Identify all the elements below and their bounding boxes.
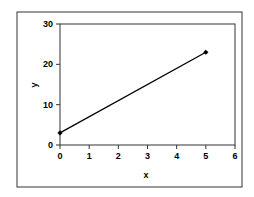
x-tick-label: 5 [203,151,208,161]
y-tick-label: 0 [48,140,53,150]
x-tick-label: 3 [145,151,150,161]
x-tick-label: 0 [57,151,62,161]
x-tick-label: 4 [174,151,179,161]
y-tick-label: 20 [43,59,53,69]
y-axis-label: y [29,82,39,87]
y-tick-label: 30 [43,19,53,29]
x-tick-label: 1 [87,151,92,161]
chart: 0102030 0123456 x y [0,0,254,197]
x-axis-label: x [143,170,148,180]
x-tick-label: 2 [116,151,121,161]
y-tick-label: 10 [43,100,53,110]
x-tick-label: 6 [232,151,237,161]
